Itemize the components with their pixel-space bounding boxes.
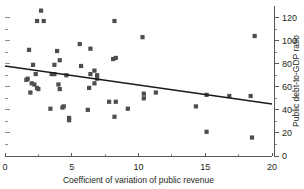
data-point (67, 118, 71, 122)
x-tick-label: 15 (200, 162, 210, 172)
y-tick-label: 20 (282, 128, 292, 138)
data-point (28, 90, 32, 94)
data-point (58, 87, 62, 91)
y-axis-title: Public debt-to-GDP ratio (291, 35, 301, 127)
data-point (58, 58, 62, 62)
chart-canvas: 05101520 020406080100120 Coefficient of … (0, 0, 304, 189)
x-tick-label: 0 (2, 162, 7, 172)
data-point (126, 107, 130, 111)
data-point (142, 96, 146, 100)
data-point (88, 72, 92, 76)
y-tick-label: 120 (282, 13, 297, 23)
data-point (34, 72, 38, 76)
data-point (204, 130, 208, 134)
data-point (92, 69, 96, 73)
data-point (35, 19, 39, 23)
data-point (39, 9, 43, 13)
data-point (52, 63, 56, 67)
data-point (42, 19, 46, 23)
data-point (62, 104, 66, 108)
y-axis-major-ticks-right (274, 18, 279, 156)
y-tick-label: 0 (282, 151, 287, 161)
data-point (140, 35, 144, 39)
x-tick-label: 5 (69, 162, 74, 172)
data-point (112, 19, 116, 23)
data-point (79, 64, 83, 68)
data-point (114, 100, 118, 104)
data-point (36, 87, 40, 91)
x-axis-title: Coefficient of variation of public reven… (63, 175, 214, 185)
trend-line (5, 66, 272, 104)
data-point (56, 82, 60, 86)
data-point (249, 94, 253, 98)
data-point (26, 77, 30, 81)
data-point (86, 108, 90, 112)
data-point (112, 115, 116, 119)
data-point (31, 63, 35, 67)
data-point (154, 90, 158, 94)
scatter-chart: 05101520 020406080100120 Coefficient of … (0, 0, 304, 189)
data-point (142, 92, 146, 96)
x-tick-label: 20 (267, 162, 277, 172)
data-point (48, 107, 52, 111)
data-point (88, 47, 92, 51)
data-point (92, 81, 96, 85)
data-point (27, 48, 31, 52)
data-point (107, 100, 111, 104)
data-point (78, 42, 82, 46)
data-point (87, 86, 91, 90)
x-axis-major-ticks (5, 153, 272, 157)
y-axis-major-ticks-left (5, 18, 10, 156)
data-point (253, 34, 257, 38)
data-point (114, 56, 118, 60)
x-tick-label: 10 (133, 162, 143, 172)
x-axis-tick-labels: 05101520 (2, 162, 277, 172)
data-point (250, 135, 254, 139)
data-point (194, 104, 198, 108)
data-point (55, 49, 59, 53)
